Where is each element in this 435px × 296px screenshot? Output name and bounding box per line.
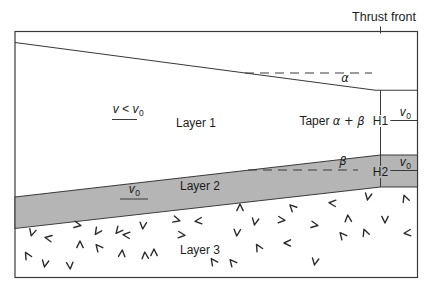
velocity-inequality-sub: 0 — [139, 108, 144, 118]
layer1-label: Layer 1 — [176, 117, 216, 129]
basement-chevron — [178, 231, 185, 238]
wedge-cross-section-figure: Thrust front Layer 1 Layer 2 Layer 3 Tap… — [0, 0, 435, 296]
basement-chevron — [41, 260, 48, 268]
basement-chevron — [44, 234, 52, 241]
v0-sub: 0 — [135, 188, 140, 198]
basement-chevron — [382, 216, 388, 223]
basement-chevron — [278, 216, 285, 223]
beta-angle-label: β — [339, 156, 346, 168]
basement-chevron — [311, 221, 319, 228]
basement-chevron — [94, 243, 103, 252]
basement-chevron — [401, 194, 409, 202]
basement-chevron — [284, 240, 291, 246]
v0-layer2-label: v0 — [129, 183, 140, 195]
v0-base: v — [129, 182, 135, 196]
basement-chevron — [288, 203, 297, 212]
basement-chevron — [345, 215, 352, 222]
velocity-inequality-label: v < v0 — [113, 103, 143, 115]
h2-label: H2 — [371, 166, 390, 178]
h1-label: H1 — [371, 115, 390, 127]
basement-chevron — [114, 226, 123, 235]
taper-label: Taper α + β — [299, 114, 364, 127]
v0-sub: 0 — [406, 161, 411, 171]
basement-chevron — [209, 257, 218, 266]
basement-chevron — [234, 229, 241, 236]
basement-chevron — [66, 262, 73, 269]
basement-chevron — [74, 221, 82, 228]
v0-lower-label: v0 — [400, 156, 411, 168]
v0-base: v — [400, 155, 406, 169]
alpha-angle-label: α — [341, 73, 349, 85]
taper-label-angles: α + β — [333, 113, 365, 127]
basement-chevron — [93, 227, 102, 236]
basement-chevron — [123, 232, 130, 239]
basement-chevron — [173, 216, 181, 224]
v0-upper-label: v0 — [400, 106, 411, 118]
basement-chevron — [195, 217, 202, 224]
taper-label-prefix: Taper — [299, 113, 332, 127]
v0-sub: 0 — [406, 111, 411, 121]
basement-chevron — [254, 243, 263, 252]
basement-chevron — [140, 222, 147, 229]
basement-chevron — [118, 250, 125, 257]
section-frame — [15, 32, 418, 278]
basement-chevron — [338, 231, 347, 240]
basement-chevron — [237, 204, 243, 211]
topographic-surface-line — [15, 43, 418, 91]
basement-chevron — [228, 258, 237, 267]
thrust-front-label: Thrust front — [352, 11, 416, 24]
v0-base: v — [400, 105, 406, 119]
basement-chevron — [329, 200, 336, 207]
basement-chevron — [28, 229, 36, 237]
basement-chevron — [251, 218, 258, 226]
basement-chevron — [364, 193, 371, 201]
velocity-inequality-expr: v < v — [113, 102, 139, 116]
basement-chevron — [151, 249, 157, 256]
basement-chevron — [311, 258, 318, 266]
layer2-label: Layer 2 — [180, 180, 220, 192]
basement-chevron — [23, 251, 32, 260]
basement-chevron — [142, 252, 149, 259]
basement-chevron — [404, 229, 411, 236]
basement-chevron — [77, 241, 83, 248]
basement-chevron — [361, 228, 369, 236]
layer3-label: Layer 3 — [180, 244, 220, 256]
